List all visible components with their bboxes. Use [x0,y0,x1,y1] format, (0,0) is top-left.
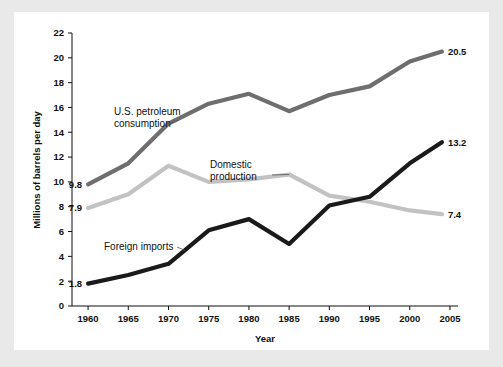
x-tick-label: 1995 [359,313,381,324]
x-tick-label: 1965 [118,313,140,324]
y-tick-label: 22 [53,27,64,38]
start-value-label: 9.8 [69,179,82,190]
annotation-label: Foreign imports [104,241,173,252]
annotation-label: consumption [114,118,171,129]
start-value-label: 1.8 [69,278,82,289]
y-axis-title: Millions of barrels per day [31,110,42,228]
end-value-label: 13.2 [448,137,467,148]
y-tick-label: 14 [53,127,64,138]
x-tick-label: 1980 [238,313,259,324]
x-axis-title: Year [255,333,275,344]
chart-figure: 0246810121416182022 19601965197019751980… [14,12,489,350]
annotation-label: production [210,171,257,182]
x-tick-label: 1960 [78,313,99,324]
x-tick-label: 2005 [439,313,461,324]
end-value-label: 20.5 [448,46,467,57]
x-tick-label: 1990 [319,313,340,324]
y-tick-label: 6 [59,226,64,237]
annotation-leader-line [177,247,185,250]
y-tick-label: 4 [59,251,65,262]
x-tick-label: 1975 [198,313,220,324]
annotation-label: Domestic [210,159,252,170]
series-line-foreign-imports [88,142,442,283]
annotation-leader-line [272,174,289,175]
y-tick-label: 12 [53,151,64,162]
y-tick-label: 0 [59,300,64,311]
end-value-label: 7.4 [448,209,462,220]
x-tick-label: 2000 [399,313,420,324]
start-value-label: 7.9 [69,202,82,213]
y-tick-label: 20 [53,52,64,63]
y-tick-label: 16 [53,102,64,113]
x-tick-label: 1970 [158,313,179,324]
x-tick-label: 1985 [279,313,301,324]
x-axis-tick-labels: 1960196519701975198019851990199520002005 [78,313,462,324]
y-axis-tick-labels: 0246810121416182022 [53,27,64,311]
line-chart: 0246810121416182022 19601965197019751980… [14,12,489,350]
y-axis-ticks [68,33,72,306]
annotation-label: U.S. petroleum [114,106,181,117]
y-tick-label: 8 [59,201,64,212]
y-tick-label: 10 [53,176,64,187]
x-axis-ticks [88,306,450,310]
y-tick-label: 18 [53,77,64,88]
series-line-domestic-production [88,166,442,214]
y-tick-label: 2 [59,276,64,287]
